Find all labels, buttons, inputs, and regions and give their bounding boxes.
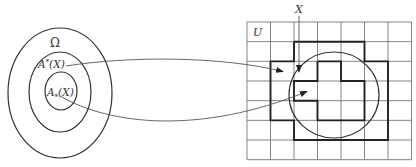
rough-set-diagram: Ω A*(X) A*(X) U X — [0, 0, 416, 167]
set-x-label: X — [294, 3, 304, 16]
left-venn: Ω A*(X) A*(X) — [8, 28, 112, 158]
grid-universe-label: U — [253, 26, 263, 39]
universe-label: Ω — [50, 36, 60, 50]
upper-approximation-label: A*(X) — [37, 58, 65, 70]
universe-grid — [247, 22, 412, 160]
set-x-circle — [289, 52, 379, 138]
upper-approximation-boundary — [271, 42, 389, 140]
lower-approximation-boundary — [294, 61, 365, 120]
lower-approximation-label: A*(X) — [46, 86, 74, 101]
